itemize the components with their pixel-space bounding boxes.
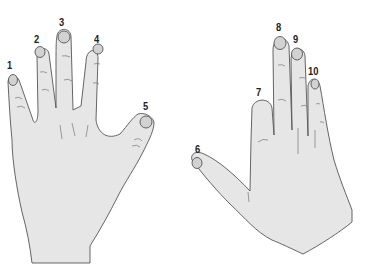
finger-label-9: 9 bbox=[293, 34, 298, 45]
left-hand bbox=[8, 29, 154, 263]
finger-label-5: 5 bbox=[143, 101, 148, 112]
finger-label-10: 10 bbox=[308, 66, 318, 77]
hands-illustration: 1 2 3 4 5 6 7 8 9 10 bbox=[0, 0, 369, 269]
finger-label-1: 1 bbox=[7, 60, 12, 71]
finger-label-4: 4 bbox=[94, 34, 99, 45]
finger-label-2: 2 bbox=[34, 34, 39, 45]
hands-svg bbox=[0, 0, 369, 269]
right-hand bbox=[192, 37, 352, 255]
finger-label-7: 7 bbox=[256, 87, 261, 98]
finger-label-3: 3 bbox=[59, 17, 64, 28]
finger-label-6: 6 bbox=[195, 144, 200, 155]
finger-label-8: 8 bbox=[276, 22, 281, 33]
